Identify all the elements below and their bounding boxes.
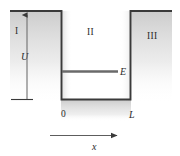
region-I-label: I [15,27,18,37]
x-axis-label: x [92,142,96,152]
well-width-label: L [129,110,135,120]
region-III-label: III [147,32,157,42]
potential-well-figure: I II III U E 0 L x [0,0,180,156]
energy-level-label: E [120,67,126,77]
region-II-label: II [87,28,94,38]
potential-depth-label: U [21,52,28,62]
potential-well-drawing [0,0,180,156]
origin-label: 0 [61,110,66,120]
